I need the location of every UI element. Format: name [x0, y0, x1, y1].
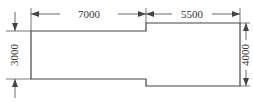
dimension-label-top-left: 7000 [78, 8, 101, 20]
floor-outline [31, 23, 240, 86]
dimension-label-right: 4000 [239, 44, 251, 67]
dimension-label-left: 3000 [8, 44, 20, 67]
floor-plan-diagram: 7000 5500 3000 4000 [0, 0, 253, 103]
extension-lines [6, 8, 250, 86]
dimension-label-top-right: 5500 [181, 8, 204, 20]
